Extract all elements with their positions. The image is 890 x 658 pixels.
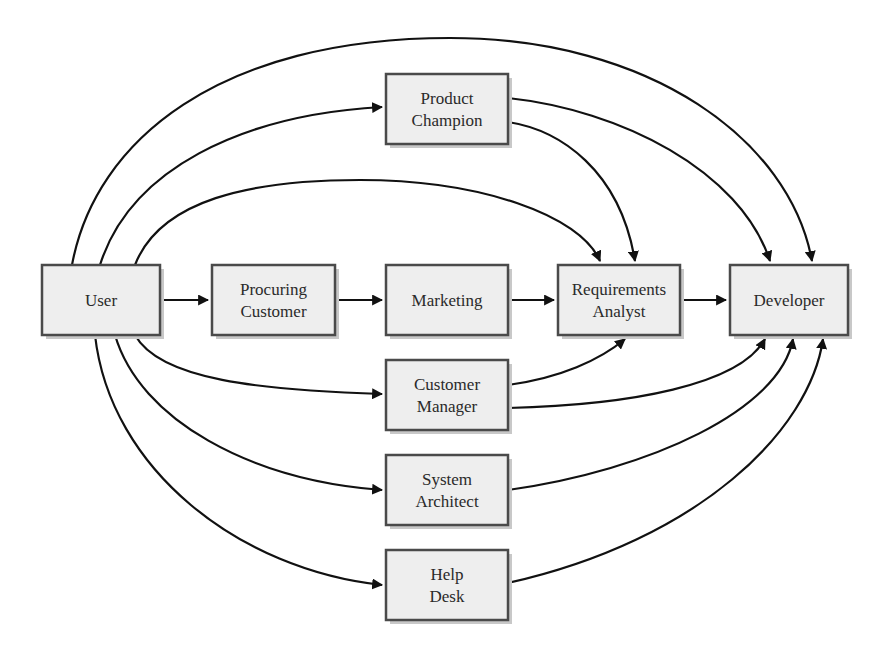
node-label: Customer xyxy=(414,375,480,394)
node-requirements-analyst: RequirementsAnalyst xyxy=(558,265,684,339)
edge-product-champion-to-requirements-analyst xyxy=(508,122,635,261)
box xyxy=(558,265,680,335)
node-marketing: Marketing xyxy=(386,265,512,339)
edge-user-to-help-desk xyxy=(95,335,382,585)
box xyxy=(386,455,508,525)
box xyxy=(386,550,508,620)
node-label: Product xyxy=(421,89,474,108)
node-label: Customer xyxy=(240,302,306,321)
node-label: Help xyxy=(430,565,463,584)
node-customer-manager: CustomerManager xyxy=(386,360,512,434)
node-label: User xyxy=(85,291,117,310)
edge-user-to-developer xyxy=(72,38,812,265)
node-help-desk: HelpDesk xyxy=(386,550,512,624)
edge-user-to-requirements-analyst xyxy=(135,180,600,265)
edge-user-to-customer-manager xyxy=(135,335,382,394)
box xyxy=(212,265,335,335)
edge-product-champion-to-developer xyxy=(508,98,770,261)
box xyxy=(386,360,508,430)
node-label: Analyst xyxy=(593,302,646,321)
node-label: Champion xyxy=(412,111,483,130)
node-product-champion: ProductChampion xyxy=(386,74,512,148)
node-label: Marketing xyxy=(412,291,483,310)
nodes-layer: UserProcuringCustomerMarketingRequiremen… xyxy=(42,74,852,624)
node-user: User xyxy=(42,265,164,339)
box xyxy=(386,74,508,144)
node-label: Desk xyxy=(430,587,465,606)
edge-customer-manager-to-developer xyxy=(508,339,765,408)
edge-system-architect-to-developer xyxy=(508,339,793,490)
diagram-canvas: UserProcuringCustomerMarketingRequiremen… xyxy=(0,0,890,658)
node-label: System xyxy=(422,470,472,489)
node-developer: Developer xyxy=(730,265,852,339)
node-procuring-customer: ProcuringCustomer xyxy=(212,265,339,339)
node-label: Requirements xyxy=(572,280,666,299)
node-system-architect: SystemArchitect xyxy=(386,455,512,529)
node-label: Architect xyxy=(415,492,479,511)
edge-customer-manager-to-requirements-analyst xyxy=(508,339,625,385)
node-label: Manager xyxy=(417,397,478,416)
edge-user-to-system-architect xyxy=(115,335,382,490)
edge-user-to-product-champion xyxy=(100,107,382,265)
node-label: Developer xyxy=(754,291,825,310)
node-label: Procuring xyxy=(240,280,308,299)
